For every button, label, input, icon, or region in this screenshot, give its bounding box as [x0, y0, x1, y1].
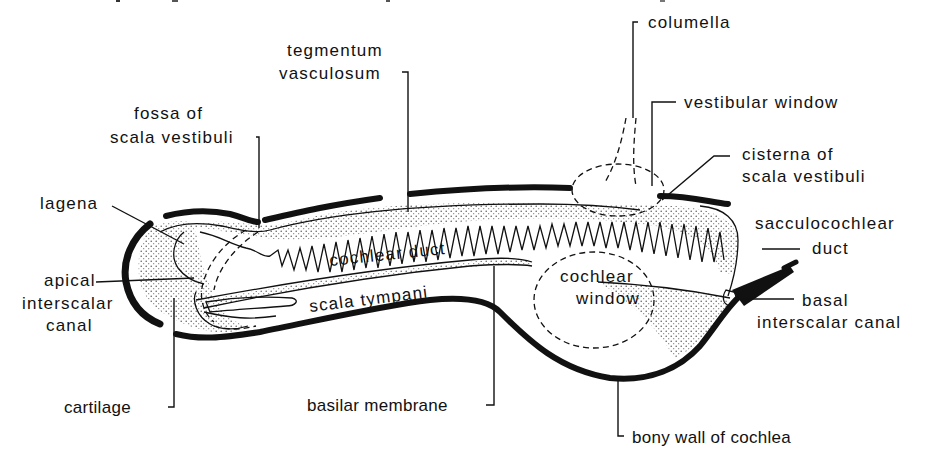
label-fossa-line2: scala vestibuli — [110, 128, 234, 147]
label-cochlear-window-line2: window — [575, 289, 640, 308]
label-apical-line2: interscalar — [22, 294, 114, 313]
label-fossa-line1: fossa of — [134, 104, 203, 123]
label-cochlear-window-line1: cochlear — [560, 267, 634, 286]
label-basal-line1: basal — [802, 291, 849, 310]
label-cisterna-line1: cisterna of — [742, 145, 834, 164]
label-sacculocochlear-line2: duct — [812, 239, 849, 258]
label-cisterna-line2: scala vestibuli — [742, 167, 866, 186]
label-tegmentum-line2: vasculosum — [279, 64, 381, 83]
label-apical-line1: apical — [44, 271, 96, 290]
cochlea-diagram: tegmentum vasculosum columella fossa of … — [0, 0, 951, 463]
label-cochlear-duct: cochlear duct — [328, 239, 446, 270]
label-lagena: lagena — [40, 194, 98, 213]
label-basal-line2: interscalar canal — [757, 313, 901, 332]
label-sacculocochlear-line1: sacculocochlear — [755, 214, 895, 233]
label-tegmentum-line1: tegmentum — [287, 41, 383, 60]
label-cartilage: cartilage — [64, 398, 131, 417]
label-columella: columella — [648, 13, 731, 32]
label-vestibular-window: vestibular window — [684, 93, 839, 112]
cropped-text-fragments — [116, 0, 665, 2]
label-bony-wall: bony wall of cochlea — [632, 428, 791, 447]
label-apical-line3: canal — [46, 316, 93, 335]
label-basilar-membrane: basilar membrane — [307, 396, 448, 415]
